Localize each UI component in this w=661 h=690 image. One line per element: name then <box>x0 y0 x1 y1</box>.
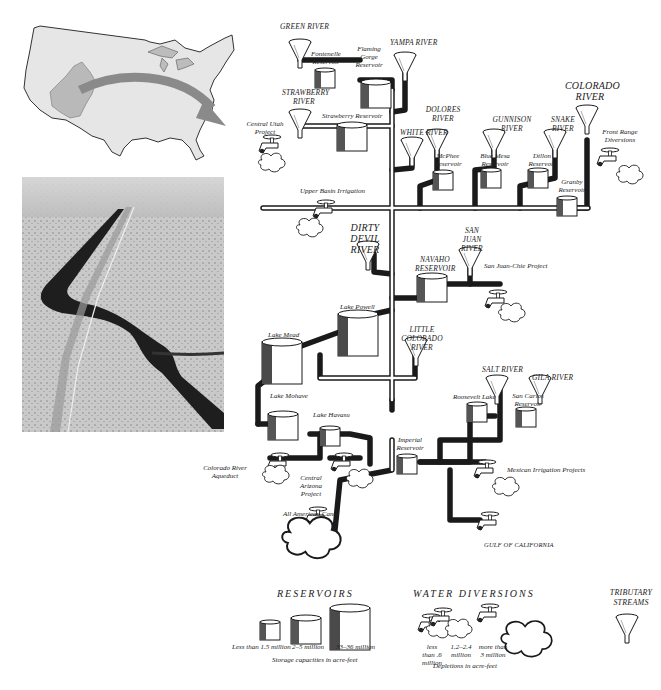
label-snake-river: SNAKE RIVER <box>548 115 578 133</box>
label-lake-mead: Lake Mead <box>268 331 299 339</box>
legend-div-large: more than 3 million <box>478 643 508 659</box>
label-flaming-gorge: Flaming Gorge Reservoir <box>352 45 386 69</box>
legend-res-small: Less than 1.5 million <box>232 643 291 651</box>
label-san-juan-chie: San Juan-Chie Project <box>484 262 548 270</box>
label-central-az: Central Arizona Project <box>294 474 328 498</box>
label-little-colorado-river: LITTLE COLORADO RIVER <box>390 325 454 352</box>
label-central-utah: Central Utah Project <box>244 120 286 136</box>
label-blue-mesa: Blue Mesa Reservoir <box>478 152 512 168</box>
label-navaho: NAVAHO RESERVOIR <box>415 255 455 273</box>
legend-div-caption: Depletions in acre-feet <box>433 662 497 670</box>
legend-diversions-title: WATER DIVERSIONS <box>413 588 535 599</box>
label-front-range: Front Range Diversions <box>600 128 640 144</box>
label-co-aqueduct: Colorado River Aqueduct <box>200 464 250 480</box>
label-all-american-canal: All American Canal <box>283 510 339 518</box>
label-salt-river: SALT RIVER <box>482 365 523 374</box>
label-gunnison-river: GUNNISON RIVER <box>492 115 532 133</box>
label-dirty-devil-river: DIRTY DEVIL RIVER <box>338 222 392 255</box>
label-strawberry-reservoir: Strawberry Reservoir <box>322 112 382 120</box>
label-imperial: Imperial Reservoir <box>393 436 427 452</box>
legend-div-medium: 1.2–2.4 million <box>448 643 474 659</box>
label-san-carlos: San Carlos Reservoir <box>512 392 544 408</box>
label-upper-basin: Upper Basin Irrigation <box>300 187 365 195</box>
label-green-river: GREEN RIVER <box>280 22 329 31</box>
label-colorado-river: COLORADO RIVER <box>565 80 615 102</box>
diagram-canvas: GREEN RIVER YAMPA RIVER STRAWBERRY RIVER… <box>0 0 661 690</box>
label-gila-river: GILA RIVER <box>532 373 573 382</box>
legend-res-medium: 2–5 million <box>292 643 324 651</box>
label-strawberry-river: STRAWBERRY RIVER <box>282 88 326 106</box>
label-lake-havasu: Lake Havasu <box>313 411 350 419</box>
label-mexican-irrigation: Mexican Irrigation Projects <box>507 466 585 474</box>
label-gulf-of-california: GULF OF CALIFORNIA <box>484 540 554 549</box>
label-fontenelle: Fontenelle Reservoir <box>308 50 344 66</box>
label-dolores-river: DOLORES RIVER <box>425 105 461 123</box>
label-roosevelt: Roosevelt Lake <box>453 393 496 401</box>
label-lake-mohave: Lake Mohave <box>270 392 308 400</box>
legend-res-caption: Storage capacities in acre-feet <box>272 656 357 664</box>
label-san-juan-river: SAN JUAN RIVER <box>455 226 489 253</box>
plumbing-diagram <box>0 0 661 690</box>
label-granby: Granby Reservoir <box>555 178 589 194</box>
label-white-river: WHITE RIVER <box>400 128 448 137</box>
label-mcphee: McPhee Reservoir <box>433 152 463 168</box>
legend-tributary-title: TRIBUTARY STREAMS <box>606 588 656 608</box>
label-dillon: Dillon Reservoir <box>525 152 559 168</box>
label-yampa-river: YAMPA RIVER <box>390 38 437 47</box>
legend-res-large: 33–36 million <box>336 643 375 651</box>
label-lake-powell: Lake Powell <box>340 303 375 311</box>
legend-reservoirs-title: RESERVOIRS <box>277 588 354 599</box>
